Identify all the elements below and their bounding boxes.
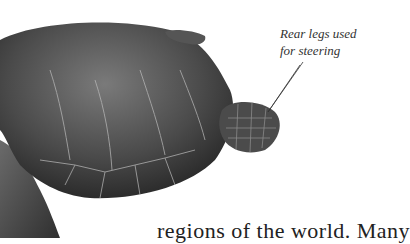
- caption-line-1: Rear legs used: [280, 25, 375, 42]
- turtle-illustration: [0, 0, 300, 238]
- shell: [0, 23, 233, 199]
- caption-pointer-line: [268, 65, 300, 112]
- figure-caption: Rear legs used for steering: [280, 25, 375, 59]
- body-text: regions of the world. Many: [157, 218, 410, 244]
- rear-leg: [219, 102, 280, 152]
- caption-line-2: for steering: [280, 42, 375, 59]
